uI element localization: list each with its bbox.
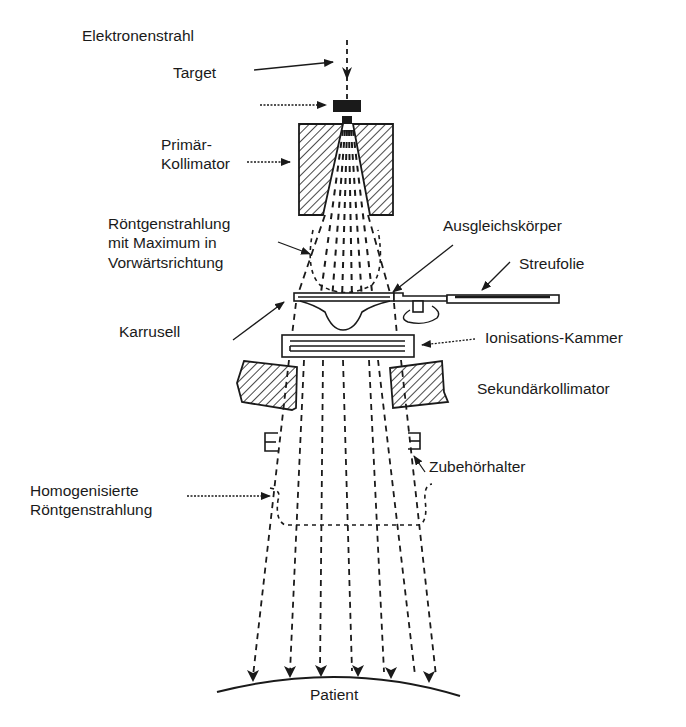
label-elektronenstrahl: Elektronenstrahl (82, 26, 194, 45)
carousel (294, 293, 447, 312)
secondary-collimator (237, 361, 448, 410)
leader-arrows (187, 62, 510, 496)
scattering-foil (447, 295, 559, 303)
label-roentgen-max-2: mit Maximum in (108, 233, 217, 252)
accessory-holder-left (265, 433, 278, 451)
label-karrusell: Karrusell (119, 322, 180, 341)
linac-head-diagram (0, 0, 686, 727)
label-zubehoerhalter: Zubehörhalter (429, 457, 526, 476)
label-roentgen-max-3: Vorwärtsrichtung (108, 253, 223, 272)
label-ionisationskammer: Ionisations-Kammer (485, 328, 623, 347)
electron-beam (342, 40, 352, 103)
label-roentgen-max-1: Röntgenstrahlung (108, 214, 230, 233)
label-primaer-kollimator-2: Kollimator (161, 154, 230, 173)
label-target: Target (173, 63, 216, 82)
label-homogen-2: Röntgenstrahlung (30, 500, 152, 519)
label-patient: Patient (310, 685, 358, 704)
target (333, 100, 361, 112)
label-ausgleichskoerper: Ausgleichskörper (443, 216, 562, 235)
label-sekundaerkollimator: Sekundärkollimator (477, 379, 610, 398)
label-streufolie: Streufolie (519, 254, 584, 273)
label-homogen-1: Homogenisierte (30, 481, 139, 500)
flattening-filter (300, 301, 390, 330)
ionization-chamber (282, 335, 414, 357)
label-primaer-kollimator-1: Primär- (161, 135, 212, 154)
